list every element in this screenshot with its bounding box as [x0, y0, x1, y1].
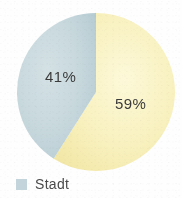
pie-chart-svg — [0, 0, 182, 198]
pie-chart-figure: 41% 59% Stadt — [0, 0, 182, 198]
pie-chart-plot-area — [0, 0, 182, 198]
legend-swatch-stadt — [16, 179, 27, 190]
pie-slice-label-41: 41% — [45, 69, 76, 84]
legend-label-stadt: Stadt — [35, 177, 69, 191]
pie-slice-label-59: 59% — [115, 96, 146, 111]
chart-legend: Stadt — [16, 177, 69, 191]
